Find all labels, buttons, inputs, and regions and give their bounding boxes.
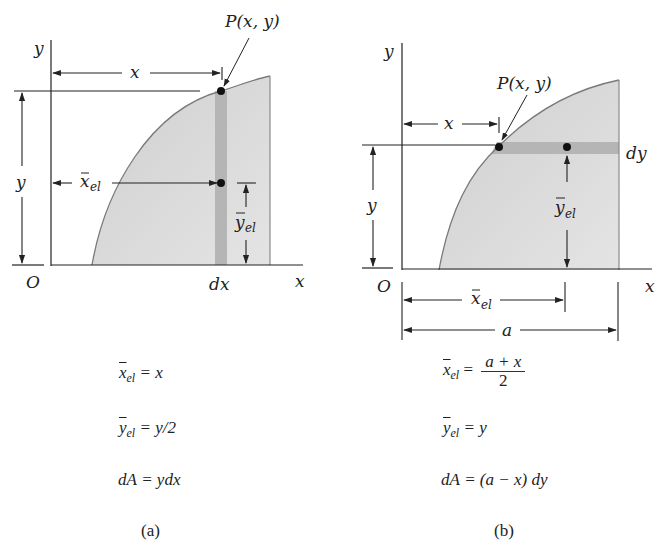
strip-label-dy: dy — [626, 143, 647, 163]
svg-text:x: x — [471, 288, 481, 308]
point-label-a: P(x, y) — [224, 11, 280, 31]
region-b — [439, 80, 619, 270]
svg-text:el: el — [481, 298, 492, 312]
svg-text:y: y — [554, 197, 565, 217]
equation-a-da: dA = ydx — [118, 470, 180, 490]
a-dim-label: a — [502, 320, 512, 340]
y-dim-label-b: y — [366, 195, 377, 215]
fraction: a + x 2 — [481, 353, 525, 390]
figure-b: y x O P(x, y) x y y el x el a dy — [362, 41, 655, 341]
svg-text:el: el — [245, 221, 256, 235]
x-axis-label-a: x — [295, 271, 305, 291]
region-a — [92, 76, 270, 265]
equation-b-yel: yel = y — [443, 418, 487, 441]
y-axis-label-a: y — [33, 38, 44, 58]
caption-b: (b) — [494, 521, 514, 541]
strip-dx — [215, 91, 227, 265]
x-dim-label-b: x — [444, 113, 454, 133]
centroid-dot-b — [563, 143, 571, 151]
diagram-canvas: y x O P(x, y) x y x el y el dx — [0, 0, 666, 557]
svg-text:el: el — [565, 207, 576, 221]
caption-a: (a) — [141, 521, 160, 541]
origin-label-b: O — [377, 276, 391, 296]
y-dim-label-a: y — [15, 172, 26, 192]
xel-label-a: x el — [80, 171, 101, 194]
origin-label-a: O — [26, 272, 40, 292]
centroid-dot-a — [217, 179, 225, 187]
svg-text:x: x — [80, 171, 90, 191]
point-p-a — [217, 87, 225, 95]
xel-label-b: x el — [471, 288, 492, 312]
equation-b-da: dA = (a − x) dy — [441, 470, 548, 490]
point-p-b — [495, 143, 503, 151]
y-axis-label-b: y — [383, 41, 394, 61]
equation-b-xel: xel = a + x 2 — [443, 353, 525, 390]
strip-label-dx: dx — [209, 274, 230, 294]
svg-text:y: y — [234, 212, 245, 232]
x-axis-label-b: x — [645, 276, 655, 296]
strip-dy — [491, 142, 619, 154]
point-label-b: P(x, y) — [496, 73, 552, 93]
equation-a-yel: yel = y/2 — [119, 418, 176, 441]
equation-a-xel: xel = x — [119, 363, 163, 386]
svg-text:el: el — [90, 180, 101, 194]
figure-a: y x O P(x, y) x y x el y el dx — [12, 11, 305, 294]
x-dim-label-a: x — [130, 62, 140, 82]
